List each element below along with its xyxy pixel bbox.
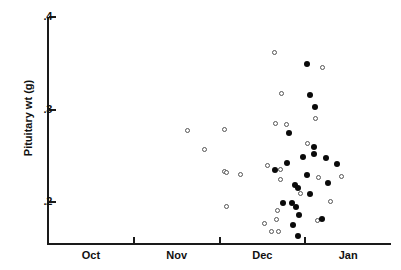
data-point-open-circles-18 — [278, 177, 283, 182]
data-point-open-circles-21 — [313, 116, 318, 121]
data-point-open-circles-9 — [275, 208, 280, 213]
y-tick-label-2: .2 — [32, 196, 52, 206]
data-point-open-circles-10 — [274, 217, 279, 222]
data-point-filled-circles-13 — [307, 191, 313, 197]
x-tick-1 — [219, 237, 221, 244]
x-tick-label-dec: Dec — [232, 249, 292, 261]
data-point-open-circles-24 — [328, 199, 333, 204]
data-point-filled-circles-7 — [323, 155, 329, 161]
y-axis-line — [47, 17, 49, 245]
data-point-open-circles-8 — [262, 221, 267, 226]
data-point-filled-circles-1 — [307, 92, 313, 98]
y-tick-label-1: .3 — [32, 104, 52, 114]
data-point-open-circles-1 — [222, 127, 227, 132]
data-point-open-circles-20 — [320, 65, 325, 70]
x-tick-label-oct: Oct — [61, 249, 121, 261]
data-point-filled-circles-4 — [311, 144, 317, 150]
y-tick-label-0: .4 — [32, 11, 52, 21]
data-point-filled-circles-22 — [334, 161, 340, 167]
data-point-filled-circles-14 — [280, 200, 286, 206]
scatter-chart: Pituitary wt (g) .4.3.2 OctNovDecJan — [0, 0, 401, 270]
data-point-open-circles-23 — [339, 174, 344, 179]
data-point-filled-circles-0 — [304, 61, 310, 67]
y-axis-title: Pituitary wt (g) — [22, 43, 34, 193]
x-tick-2 — [304, 237, 306, 244]
data-point-open-circles-11 — [269, 229, 274, 234]
data-point-open-circles-14 — [279, 91, 284, 96]
data-point-filled-circles-9 — [304, 172, 310, 178]
data-point-open-circles-13 — [272, 50, 277, 55]
data-point-filled-circles-21 — [284, 160, 290, 166]
x-tick-0 — [133, 237, 135, 244]
data-point-filled-circles-8 — [272, 167, 278, 173]
data-point-open-circles-22 — [305, 141, 310, 146]
data-point-open-circles-19 — [316, 175, 321, 180]
data-point-filled-circles-17 — [296, 212, 302, 218]
data-point-open-circles-6 — [265, 163, 270, 168]
data-point-open-circles-17 — [278, 167, 283, 172]
data-point-filled-circles-18 — [319, 216, 325, 222]
data-point-open-circles-0 — [185, 128, 190, 133]
data-point-open-circles-26 — [298, 191, 303, 196]
data-point-filled-circles-3 — [286, 130, 292, 136]
data-point-open-circles-12 — [276, 229, 281, 234]
x-tick-label-jan: Jan — [318, 249, 378, 261]
data-point-open-circles-5 — [238, 172, 243, 177]
data-point-filled-circles-6 — [300, 154, 306, 160]
data-point-open-circles-2 — [202, 147, 207, 152]
data-point-filled-circles-2 — [312, 104, 318, 110]
data-point-filled-circles-20 — [295, 233, 301, 239]
data-point-filled-circles-19 — [290, 222, 296, 228]
data-point-open-circles-4 — [224, 170, 229, 175]
data-point-open-circles-7 — [224, 204, 229, 209]
x-tick-label-nov: Nov — [147, 249, 207, 261]
data-point-filled-circles-16 — [293, 204, 299, 210]
data-point-filled-circles-5 — [311, 151, 317, 157]
data-point-filled-circles-10 — [325, 180, 331, 186]
data-point-open-circles-15 — [273, 121, 278, 126]
data-point-open-circles-16 — [284, 122, 289, 127]
data-point-filled-circles-12 — [295, 185, 301, 191]
